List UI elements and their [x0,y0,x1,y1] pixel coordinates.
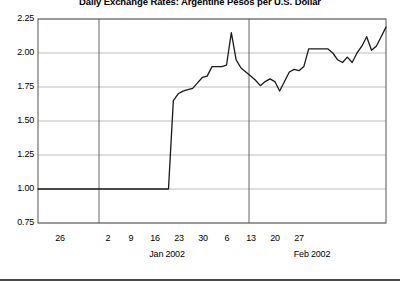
y-tick-label: 2.00 [0,47,34,57]
y-tick-label: 2.25 [0,13,34,23]
data-line-group [38,27,386,189]
y-tick-label: 1.00 [0,183,34,193]
y-tick-label: 0.75 [0,217,34,227]
month-label: Jan 2002 [122,249,212,259]
month-label: Feb 2002 [267,249,357,259]
grid-lines [38,19,386,223]
chart-container: Daily Exchange Rates: Argentine Pesos pe… [0,0,400,281]
x-tick-label: 27 [284,233,314,243]
y-tick-label: 1.50 [0,115,34,125]
data-line-series-0 [38,27,386,189]
y-tick-label: 1.25 [0,149,34,159]
x-tick-label: 26 [45,233,75,243]
y-tick-label: 1.75 [0,81,34,91]
